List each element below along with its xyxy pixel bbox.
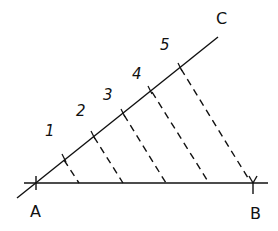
construction-diagram: 1 2 3 4 5 C A B	[0, 0, 278, 231]
label-2: 2	[76, 102, 86, 120]
label-5: 5	[160, 36, 170, 54]
label-3: 3	[103, 86, 113, 104]
label-point-a: A	[30, 202, 41, 221]
label-point-b: B	[250, 204, 261, 223]
tick-b	[249, 176, 257, 194]
label-point-c: C	[216, 9, 227, 28]
ray-ac	[17, 37, 218, 198]
parallel-line-5	[181, 69, 248, 178]
parallel-line-4	[152, 92, 209, 183]
label-1: 1	[45, 122, 55, 140]
parallel-line-3	[124, 115, 166, 183]
label-4: 4	[132, 65, 142, 83]
parallel-line-2	[94, 137, 123, 183]
parallel-line-1	[64, 160, 79, 183]
